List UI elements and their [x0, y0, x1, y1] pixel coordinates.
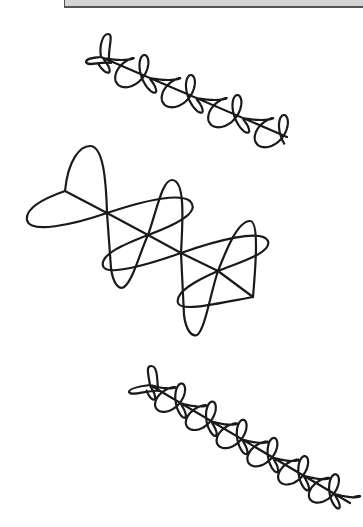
top-curve-figure	[86, 34, 288, 147]
middle-curve-horizontal-lobes	[27, 191, 268, 307]
bottom-curve-body	[147, 384, 361, 509]
top-curve-body	[98, 55, 288, 147]
bottom-curve-tail-loop	[129, 366, 160, 394]
middle-curve-figure	[27, 146, 268, 335]
bottom-curve-figure	[129, 366, 360, 509]
middle-curve-diagonal-spine	[65, 191, 253, 297]
